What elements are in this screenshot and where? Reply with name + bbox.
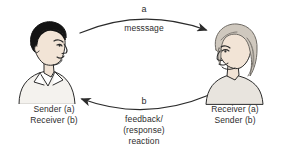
sender-label-line-2: Receiver (b) [0,115,108,126]
receiver-figure [200,20,270,108]
message-arrow-caption-line-1: messsage [96,23,192,34]
receiver-label: Receiver (a) Sender (b) [186,104,284,125]
message-arrow-label: a messsage [96,4,192,34]
feedback-arrow-letter: b [96,96,192,107]
sender-figure [14,16,84,104]
woman-portrait-facing-left-icon [200,20,270,108]
sender-label-line-1: Sender (a) [0,104,108,115]
sender-label: Sender (a) Receiver (b) [0,104,108,125]
receiver-label-line-2: Sender (b) [186,115,284,126]
message-arrow-letter: a [96,4,192,15]
feedback-arrow-label: b feedback/ (response) reaction [96,96,192,146]
receiver-label-line-1: Receiver (a) [186,104,284,115]
feedback-arrow-caption-line-2: (response) [96,125,192,136]
feedback-arrow-caption-line-1: feedback/ [96,114,192,125]
man-portrait-facing-right-icon [14,16,84,104]
feedback-arrow-caption-line-3: reaction [96,136,192,147]
communication-model-diagram: a messsage b feedback/ (response) reacti… [0,0,284,156]
